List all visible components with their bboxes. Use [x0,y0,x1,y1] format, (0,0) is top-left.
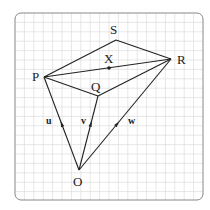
arrow-u-icon [61,121,65,127]
edge-sr [116,40,171,59]
label-p: P [32,69,39,84]
vector-diagram: S R P Q X O u v w [0,0,210,210]
label-s: S [110,22,117,37]
label-u: u [46,115,52,126]
point-x-dot [107,66,111,70]
label-v: v [81,115,86,126]
label-x: X [104,51,114,66]
label-q: Q [91,79,101,94]
label-r: R [177,52,186,67]
label-o: O [73,174,82,189]
grid-background [15,13,203,200]
label-w: w [128,115,136,126]
